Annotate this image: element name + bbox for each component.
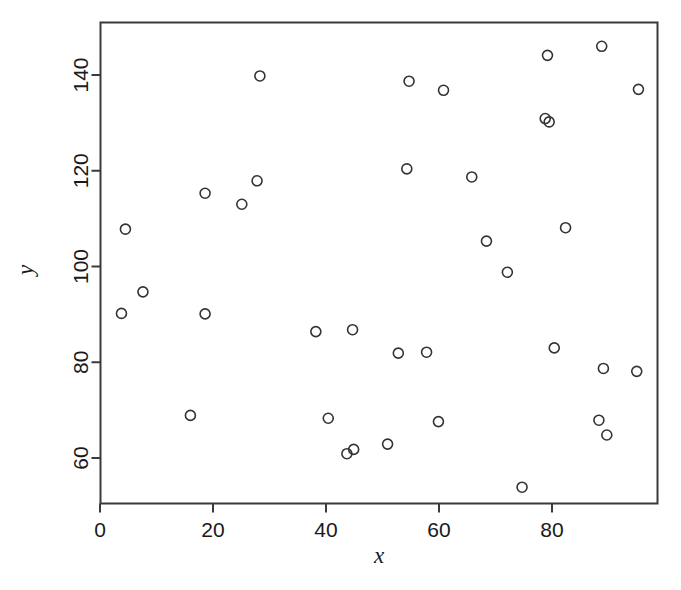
data-point: [632, 366, 642, 376]
x-tick-label: 40: [314, 518, 337, 541]
data-point: [393, 348, 403, 358]
plot-frame: [101, 23, 658, 504]
data-point: [481, 236, 491, 246]
data-point: [597, 41, 607, 51]
data-point: [402, 164, 412, 174]
data-point: [255, 71, 265, 81]
x-axis-ticks: [100, 504, 552, 513]
x-tick-label: 20: [201, 518, 224, 541]
y-tick-label: 140: [69, 57, 92, 92]
data-point: [542, 50, 552, 60]
data-point: [467, 172, 477, 182]
data-point: [252, 176, 262, 186]
data-point: [311, 327, 321, 337]
data-point: [116, 308, 126, 318]
x-tick-label: 0: [94, 518, 106, 541]
data-point: [323, 413, 333, 423]
data-point: [439, 85, 449, 95]
data-point: [200, 309, 210, 319]
data-point: [383, 439, 393, 449]
data-point: [422, 347, 432, 357]
data-point: [602, 430, 612, 440]
y-axis-tick-labels: 6080100120140: [69, 57, 92, 469]
data-point: [561, 223, 571, 233]
data-point: [120, 224, 130, 234]
y-axis-title: y: [13, 264, 38, 277]
data-point: [185, 410, 195, 420]
data-point: [237, 199, 247, 209]
y-tick-label: 80: [69, 351, 92, 374]
data-point: [138, 287, 148, 297]
y-tick-label: 120: [69, 153, 92, 188]
y-tick-label: 100: [69, 249, 92, 284]
data-point: [348, 325, 358, 335]
data-point: [633, 84, 643, 94]
data-point: [594, 415, 604, 425]
data-point: [502, 267, 512, 277]
x-tick-label: 80: [540, 518, 563, 541]
data-point: [200, 188, 210, 198]
data-point-layer: [116, 41, 643, 492]
x-axis-title: x: [373, 543, 385, 568]
data-point: [433, 417, 443, 427]
plot-canvas: 020406080 6080100120140 x y: [0, 0, 681, 590]
data-point: [598, 363, 608, 373]
x-axis-tick-labels: 020406080: [94, 518, 564, 541]
y-tick-label: 60: [69, 446, 92, 469]
data-point: [404, 76, 414, 86]
data-point: [549, 343, 559, 353]
y-axis-ticks: [92, 75, 101, 458]
data-point: [517, 482, 527, 492]
scatter-plot-figure: 020406080 6080100120140 x y: [0, 0, 681, 590]
x-tick-label: 60: [427, 518, 450, 541]
